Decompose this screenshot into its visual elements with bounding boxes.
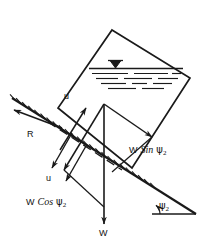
label-slope-angle: ψ2	[159, 196, 169, 213]
label-w-sin-subscript: 2	[163, 149, 167, 157]
figure-canvas: u u R W WSinψ2 WCosψ2 ψ2	[0, 0, 206, 245]
label-weight-W: W	[99, 229, 108, 238]
label-w-cos-function: Cos	[38, 196, 54, 207]
reaction-vector-R	[14, 110, 62, 128]
label-w-cos-prefix: W	[26, 197, 35, 207]
reaction-vector-group	[14, 110, 62, 128]
label-reaction-R: R	[27, 130, 34, 139]
force-parallelogram-edge-left	[64, 170, 104, 207]
label-slope-angle-subscript: 2	[166, 205, 170, 213]
label-w-sin-angle-symbol: ψ	[156, 144, 163, 155]
label-w-cos-subscript: 2	[63, 201, 67, 209]
label-velocity-lower: u	[46, 174, 51, 183]
label-w-cos-psi2: WCosψ2	[26, 192, 66, 209]
label-w-cos-angle-symbol: ψ	[56, 196, 63, 207]
label-velocity-upper: u	[64, 92, 69, 101]
label-w-sin-function: Sin	[141, 144, 154, 155]
label-slope-angle-symbol: ψ	[159, 200, 166, 211]
label-w-sin-prefix: W	[129, 145, 138, 155]
label-w-sin-psi2: WSinψ2	[129, 140, 166, 157]
